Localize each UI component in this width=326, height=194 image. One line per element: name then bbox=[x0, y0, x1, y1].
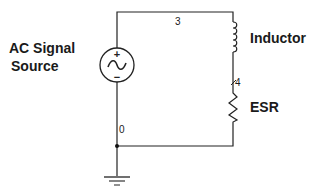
plus-sign: + bbox=[114, 48, 120, 60]
circuit-diagram: + − AC Signal Source Inductor ESR 3 4 0 bbox=[0, 0, 326, 194]
ground-icon bbox=[104, 177, 130, 185]
wire-bottom bbox=[117, 125, 233, 146]
source-label-line2: Source bbox=[11, 58, 59, 74]
junction-dot bbox=[115, 144, 119, 148]
node-3-label: 3 bbox=[175, 16, 181, 27]
node-0-label: 0 bbox=[119, 124, 125, 135]
minus-sign: − bbox=[114, 71, 120, 83]
ac-source-symbol: + − bbox=[100, 48, 134, 83]
inductor-label: Inductor bbox=[250, 30, 307, 46]
source-label-line1: AC Signal bbox=[9, 40, 75, 56]
resistor-label: ESR bbox=[250, 99, 279, 115]
resistor-symbol bbox=[229, 90, 237, 125]
inductor-symbol bbox=[233, 22, 237, 52]
wires bbox=[117, 12, 233, 176]
node-4-label: 4 bbox=[235, 77, 241, 88]
